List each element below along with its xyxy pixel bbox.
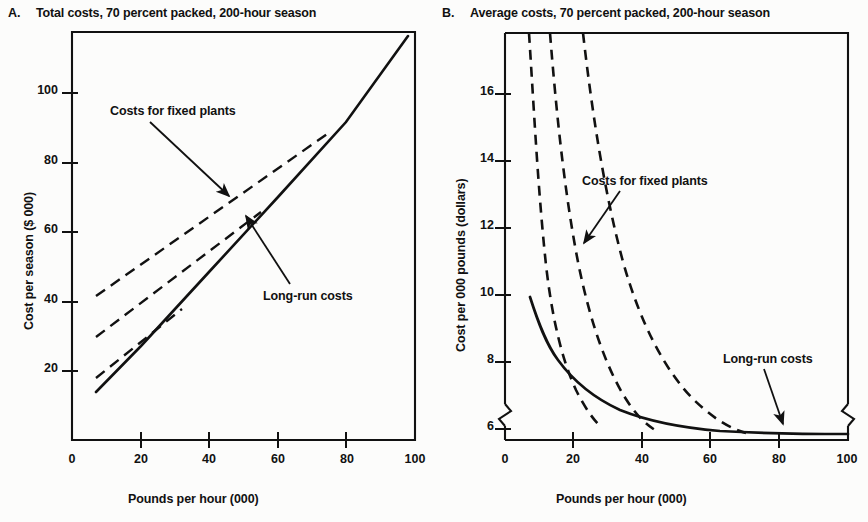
panel-b-fixed-plant-curve-3 bbox=[583, 33, 746, 433]
panel-b-right-axis-break-icon bbox=[842, 404, 854, 426]
panel-b-leader-long-run bbox=[764, 369, 783, 424]
panel-b-plot bbox=[434, 0, 868, 522]
panel-a-fixed-plant-line-3 bbox=[96, 132, 330, 296]
panel-b-leader-fixed-plants bbox=[584, 191, 620, 243]
panel-a-fixed-plant-line-1 bbox=[96, 309, 182, 378]
panel-a: A. Total costs, 70 percent packed, 200-h… bbox=[0, 0, 434, 522]
panel-b-y-ticks bbox=[495, 94, 511, 429]
panel-b-left-axis-break-icon bbox=[499, 404, 511, 426]
panel-a-leader-fixed-plants bbox=[150, 122, 229, 196]
panel-b-long-run-curve bbox=[530, 297, 848, 434]
panel-a-plot bbox=[0, 0, 434, 522]
panel-b: B. Average costs, 70 percent packed, 200… bbox=[434, 0, 868, 522]
panel-a-y-ticks bbox=[62, 93, 78, 371]
panel-a-leader-long-run bbox=[246, 216, 290, 284]
panel-a-long-run-line bbox=[96, 36, 408, 392]
figure-root: A. Total costs, 70 percent packed, 200-h… bbox=[0, 0, 868, 522]
panel-a-fixed-plant-line-2 bbox=[96, 212, 261, 337]
